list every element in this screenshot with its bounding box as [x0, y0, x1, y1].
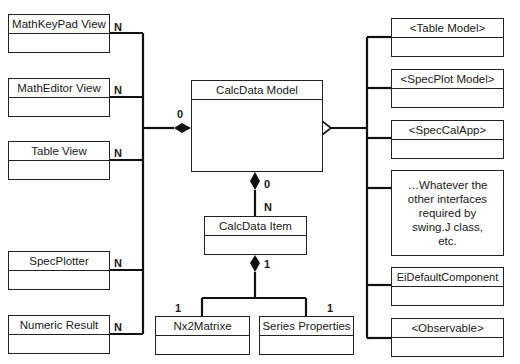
- class-name: Nx2Matrixe: [156, 317, 249, 336]
- class-mathkeypad-view: MathKeyPad View: [8, 14, 110, 53]
- class-name: <Table Model>: [392, 19, 503, 38]
- multiplicity-label: N: [114, 84, 122, 96]
- realization-arrowhead: [322, 121, 331, 135]
- class-name: MathEditor View: [9, 79, 109, 98]
- multiplicity-label: N: [114, 147, 122, 159]
- class-name: <Observable>: [392, 319, 503, 338]
- composition-diamond-left: [174, 123, 191, 133]
- multiplicity-label: 0: [264, 178, 270, 190]
- class-eidefaultcomponent: EiDefaultComponent: [391, 267, 504, 306]
- multiplicity-label: 0: [177, 108, 183, 120]
- class-table-view: Table View: [8, 141, 110, 180]
- multiplicity-label: N: [114, 321, 122, 333]
- class-numeric-result: Numeric Result: [8, 315, 110, 354]
- class-calcdata-item: CalcData Item: [204, 216, 307, 255]
- multiplicity-label: N: [264, 201, 272, 213]
- interface-observable: <Observable>: [391, 318, 504, 357]
- class-name: <SpecPlot Model>: [392, 70, 503, 89]
- class-name: SpecPlotter: [9, 252, 109, 271]
- class-calcdata-model: CalcData Model: [191, 80, 323, 172]
- class-name: Series Properties: [260, 317, 353, 336]
- interface-table-model: <Table Model>: [391, 18, 504, 57]
- class-name: Numeric Result: [9, 316, 109, 335]
- multiplicity-label: N: [114, 21, 122, 33]
- class-matheditor-view: MathEditor View: [8, 78, 110, 117]
- multiplicity-label: 1: [175, 302, 181, 314]
- note-other-interfaces: …Whatever the other interfaces required …: [391, 170, 504, 256]
- interface-specplot-model: <SpecPlot Model>: [391, 69, 504, 108]
- composition-diamond-model: [250, 172, 260, 190]
- class-name: MathKeyPad View: [9, 15, 109, 34]
- composition-diamond-item: [250, 255, 260, 272]
- class-name: CalcData Item: [205, 217, 306, 236]
- class-name: <SpecCalApp>: [392, 121, 503, 140]
- class-name: Table View: [9, 142, 109, 161]
- class-name: EiDefaultComponent: [392, 268, 503, 287]
- multiplicity-label: 1: [264, 258, 270, 270]
- class-name: CalcData Model: [192, 81, 322, 100]
- class-series-properties: Series Properties: [259, 316, 354, 355]
- class-specplotter: SpecPlotter: [8, 251, 110, 290]
- interface-speccalapp: <SpecCalApp>: [391, 120, 504, 159]
- class-nx2matrixe: Nx2Matrixe: [155, 316, 250, 355]
- multiplicity-label: N: [114, 257, 122, 269]
- multiplicity-label: 1: [327, 302, 333, 314]
